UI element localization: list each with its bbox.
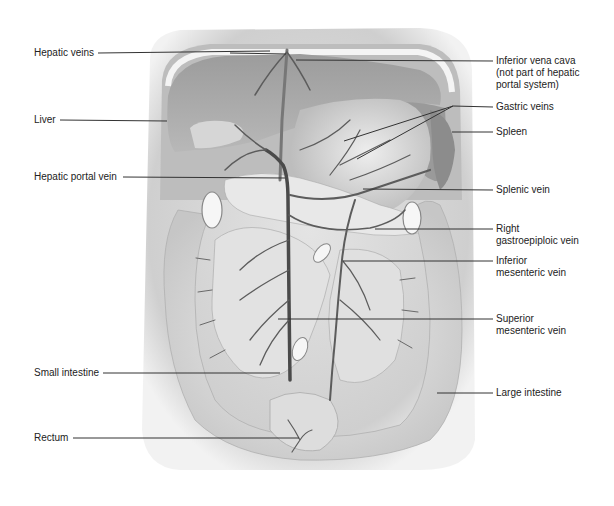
label-inferior-mesenteric-vein: Inferior mesenteric vein (496, 255, 566, 279)
label-line: gastroepiploic vein (496, 235, 579, 247)
label-line: Superior (496, 313, 566, 325)
label-inferior-vena-cava: Inferior vena cava (not part of hepatic … (496, 55, 579, 91)
label-splenic-vein: Splenic vein (496, 184, 550, 196)
label-rectum: Rectum (34, 432, 68, 444)
label-line: Inferior vena cava (496, 55, 579, 67)
label-line: Right (496, 223, 579, 235)
label-spleen: Spleen (496, 126, 527, 138)
label-superior-mesenteric-vein: Superior mesenteric vein (496, 313, 566, 337)
label-right-gastroepiploic-vein: Right gastroepiploic vein (496, 223, 579, 247)
label-line: (not part of hepatic (496, 67, 579, 79)
anatomy-diagram: Hepatic veins Liver Hepatic portal vein … (0, 0, 614, 506)
label-gastric-veins: Gastric veins (496, 101, 554, 113)
label-line: mesenteric vein (496, 325, 566, 337)
label-line: mesenteric vein (496, 267, 566, 279)
label-hepatic-portal-vein: Hepatic portal vein (34, 171, 117, 183)
label-line: portal system) (496, 79, 579, 91)
label-liver: Liver (34, 114, 56, 126)
label-large-intestine: Large intestine (496, 387, 562, 399)
label-line: Inferior (496, 255, 566, 267)
label-small-intestine: Small intestine (34, 367, 99, 379)
label-hepatic-veins: Hepatic veins (34, 47, 94, 59)
